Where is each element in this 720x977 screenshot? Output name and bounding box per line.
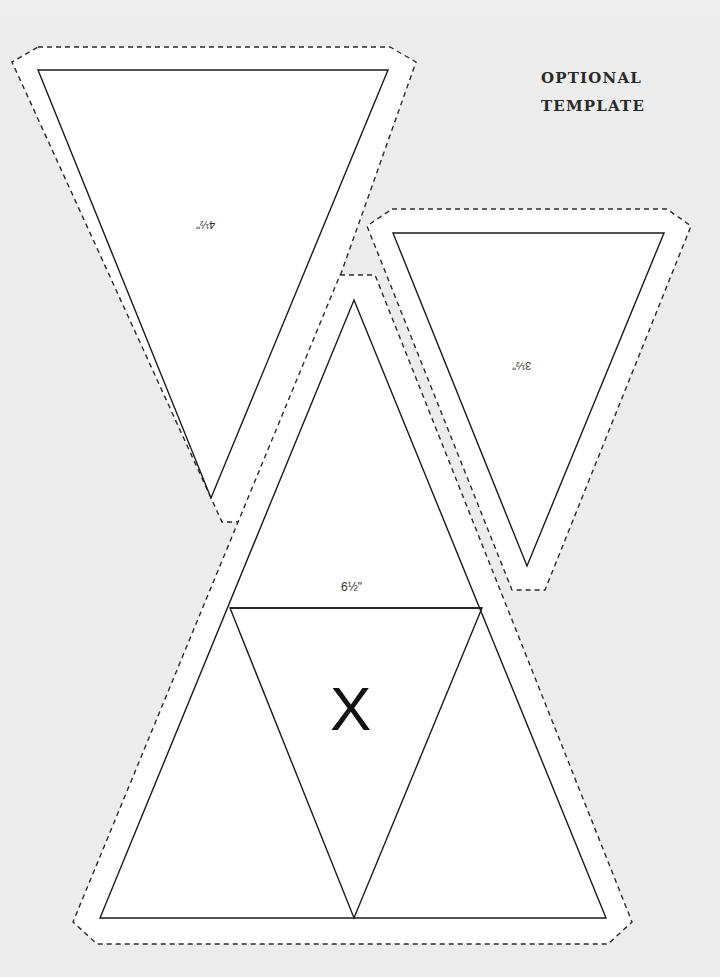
- template-drawing: [0, 0, 720, 977]
- page-heading: OPTIONAL TEMPLATE: [541, 64, 711, 120]
- heading-line-2: TEMPLATE: [541, 92, 711, 120]
- template-page: OPTIONAL TEMPLATE 4½" 3½" 6½" X: [0, 0, 720, 977]
- heading-line-1: OPTIONAL: [541, 64, 711, 92]
- small-pennant-size-label: 3½": [512, 360, 531, 372]
- large-pennant-size-label: 4½": [196, 219, 215, 231]
- big-triangle-size-label: 6½": [341, 580, 362, 594]
- center-x-mark: X: [330, 678, 371, 740]
